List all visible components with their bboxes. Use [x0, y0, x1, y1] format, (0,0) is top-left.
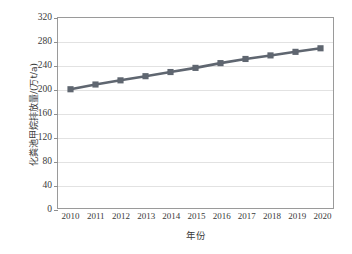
x-tick-label: 2018 [263, 212, 281, 221]
y-tick-label: 160 [38, 109, 52, 119]
chart-container: 化粪池甲烷排放量/(万t/a) 04080120160200240280320 … [0, 0, 352, 254]
y-tick-label: 80 [43, 157, 53, 167]
y-tick-mark [54, 210, 58, 211]
data-point-marker [67, 86, 73, 92]
y-tick-label: 0 [47, 205, 52, 215]
plot-area: 04080120160200240280320 2010201120122013… [57, 17, 334, 209]
data-point-marker [317, 45, 323, 51]
data-point-marker [267, 52, 273, 58]
x-tick-label: 2015 [188, 212, 206, 221]
x-tick-label: 2013 [137, 212, 155, 221]
x-tick-label: 2017 [238, 212, 256, 221]
data-point-marker [217, 60, 223, 66]
x-tick-label: 2019 [288, 212, 306, 221]
y-tick-label: 40 [43, 181, 53, 191]
y-tick-label: 200 [38, 85, 52, 95]
y-tick-label: 240 [38, 61, 52, 71]
data-series [58, 18, 333, 208]
x-tick-label: 2011 [87, 212, 105, 221]
x-tick-label: 2012 [112, 212, 130, 221]
data-point-marker [167, 69, 173, 75]
data-point-marker [92, 81, 98, 87]
y-tick-label: 320 [38, 13, 52, 23]
data-point-marker [242, 56, 248, 62]
x-tick-label: 2010 [62, 212, 80, 221]
y-tick-label: 120 [38, 133, 52, 143]
x-tick-label: 2016 [213, 212, 231, 221]
data-point-marker [142, 73, 148, 79]
data-point-marker [192, 65, 198, 71]
x-tick-label: 2020 [313, 212, 331, 221]
data-point-marker [117, 77, 123, 83]
x-tick-label: 2014 [162, 212, 180, 221]
x-axis-title: 年份 [57, 228, 334, 242]
y-tick-label: 280 [38, 37, 52, 47]
data-point-marker [292, 49, 298, 55]
